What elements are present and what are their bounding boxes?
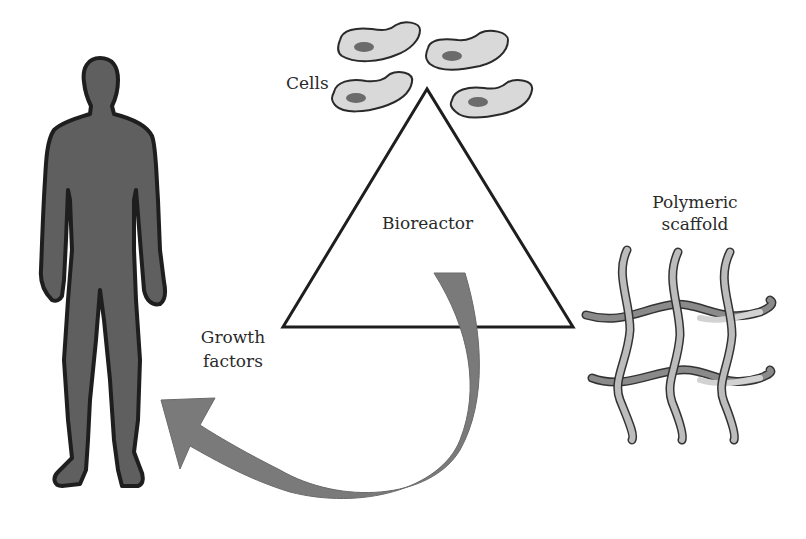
bioreactor-triangle xyxy=(283,89,573,327)
cell-icon xyxy=(426,31,508,70)
diagram-art xyxy=(0,0,806,539)
polymeric-mesh-icon xyxy=(586,250,772,440)
cells-label: Cells xyxy=(286,72,329,94)
curved-arrow-icon xyxy=(161,273,479,499)
scaffold-label-line2: scaffold xyxy=(640,213,750,235)
diagram-canvas: Cells Bioreactor Polymeric scaffold Grow… xyxy=(0,0,806,539)
cell-icon xyxy=(451,80,532,117)
human-silhouette-icon xyxy=(41,58,165,486)
growth-factors-label-line2: factors xyxy=(193,350,273,372)
cells-group xyxy=(332,22,532,117)
cell-icon xyxy=(332,72,412,111)
growth-factors-label-line1: Growth xyxy=(193,326,273,348)
scaffold-label-line1: Polymeric xyxy=(640,191,750,213)
bioreactor-label: Bioreactor xyxy=(382,212,473,234)
cell-icon xyxy=(338,22,420,61)
